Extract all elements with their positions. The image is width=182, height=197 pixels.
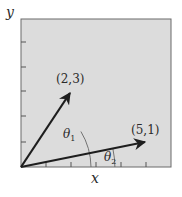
vector-angle-diagram: y x (2,3) (5,1) θ1 θ2	[0, 0, 182, 197]
vector-5-1-label: (5,1)	[131, 123, 159, 137]
y-axis-label: y	[5, 4, 15, 20]
plot-area	[21, 19, 171, 167]
theta1-subscript: 1	[70, 134, 75, 143]
vector-2-3-label: (2,3)	[56, 72, 84, 86]
theta2-subscript: 2	[111, 157, 116, 166]
x-axis-label: x	[91, 170, 99, 186]
